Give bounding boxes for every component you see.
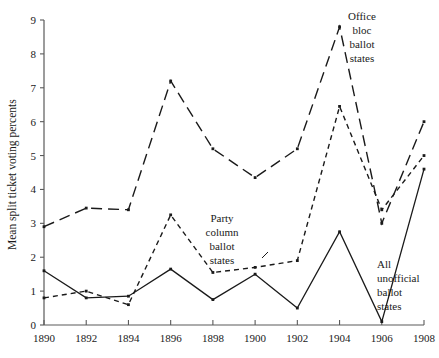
office-bloc-label-line: states — [350, 52, 374, 64]
series-marker — [380, 222, 383, 225]
series-marker — [85, 290, 88, 293]
x-tick-label: 1890 — [33, 332, 56, 344]
series-marker — [169, 80, 172, 83]
data-series-group — [43, 25, 426, 323]
party-leader-line — [262, 252, 268, 258]
office-bloc-label-line: bloc — [353, 24, 372, 36]
series-marker — [254, 266, 257, 269]
series-marker — [169, 268, 172, 271]
series-marker — [338, 105, 341, 108]
y-axis-title: Mean split ticket voting percents — [6, 99, 19, 250]
series-marker — [380, 320, 383, 323]
x-tick-labels: 1890189218941896189819001902190419061908 — [33, 332, 436, 344]
series-marker — [380, 208, 383, 211]
annotation-party-column: Partycolumnballotstates — [206, 212, 269, 266]
y-tick-label: 8 — [31, 48, 37, 60]
annotation-office-bloc: Officeblocballotstates — [348, 10, 376, 64]
chart-plot-area: 0123456789 Mean split ticket voting perc… — [0, 0, 439, 358]
series-marker — [338, 25, 341, 28]
x-tick-label: 1900 — [244, 332, 267, 344]
series-marker — [296, 147, 299, 150]
series-marker — [423, 168, 426, 171]
x-tick-label: 1894 — [117, 332, 140, 344]
y-tick-label: 7 — [31, 82, 37, 94]
y-tick-label: 3 — [31, 217, 37, 229]
series-marker — [254, 176, 257, 179]
y-tick-labels: 0123456789 — [31, 14, 37, 331]
series-marker — [296, 259, 299, 262]
y-tick-label: 1 — [31, 285, 37, 297]
x-tick-label: 1908 — [413, 332, 436, 344]
series-marker — [254, 273, 257, 276]
y-tick-label: 2 — [31, 251, 37, 263]
party-column-label-line: ballot — [209, 240, 234, 252]
series-marker — [43, 225, 46, 228]
series-marker — [338, 230, 341, 233]
office-bloc-label-line: ballot — [349, 38, 374, 50]
office-bloc-label-line: Office — [348, 10, 376, 22]
x-tick-label: 1902 — [286, 332, 308, 344]
chart-figure: 0123456789 Mean split ticket voting perc… — [0, 0, 439, 358]
annotation-all-unofficial: Allunofficialballotstates — [377, 258, 420, 312]
series-marker — [423, 154, 426, 157]
series-marker — [43, 269, 46, 272]
party-column-label-line: states — [210, 254, 234, 266]
series-marker — [127, 295, 130, 298]
x-tick-label: 1896 — [160, 332, 183, 344]
party-column-label-line: Party — [210, 212, 234, 224]
y-tick-label: 5 — [31, 150, 37, 162]
x-tick-label: 1892 — [75, 332, 97, 344]
y-axis: 0123456789 Mean split ticket voting perc… — [6, 14, 44, 331]
series-marker — [127, 208, 130, 211]
y-tick-label: 9 — [31, 14, 37, 26]
y-tick-label: 4 — [31, 183, 37, 195]
all-unofficial-label-line: states — [377, 300, 401, 312]
series-marker — [296, 307, 299, 310]
series-marker — [85, 207, 88, 210]
x-tick-label: 1904 — [329, 332, 352, 344]
x-tick-label: 1898 — [202, 332, 225, 344]
y-tick-label: 0 — [31, 319, 37, 331]
x-tick-label: 1906 — [371, 332, 394, 344]
series-marker — [423, 120, 426, 123]
all-unofficial-label-line: All — [377, 258, 391, 270]
all-unofficial-label-line: ballot — [377, 286, 402, 298]
series-marker — [127, 303, 130, 306]
all-unofficial-label-line: unofficial — [377, 272, 420, 284]
y-tick-label: 6 — [31, 116, 37, 128]
series-marker — [169, 213, 172, 216]
series-marker — [85, 296, 88, 299]
x-axis: 1890189218941896189819001902190419061908 — [33, 320, 436, 344]
series-marker — [211, 271, 214, 274]
x-tickmarks — [44, 320, 424, 325]
series-marker — [211, 147, 214, 150]
series-marker — [211, 298, 214, 301]
series-marker — [43, 296, 46, 299]
series-line-1 — [44, 106, 424, 304]
party-column-label-line: column — [206, 226, 239, 238]
